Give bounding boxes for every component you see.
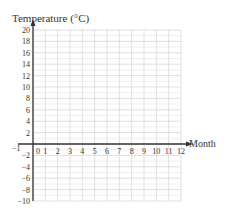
y-tick-label: 2 [26, 129, 30, 138]
y-tick-label: 16 [22, 49, 30, 58]
x-extra-label: −1 [12, 144, 21, 153]
x-axis-title: Month [189, 138, 216, 149]
y-tick-label: −2 [21, 151, 30, 160]
y-tick-label: 10 [22, 83, 30, 92]
y-tick-label: −8 [21, 186, 30, 195]
y-tick-label: 8 [26, 94, 30, 103]
x-tick-label: 6 [105, 147, 109, 156]
y-tick-label: 4 [26, 117, 30, 126]
x-tick-label: 5 [93, 147, 97, 156]
grid [33, 30, 181, 201]
x-tick-label: 10 [152, 147, 160, 156]
y-tick-label: −10 [17, 197, 30, 206]
y-tick-label: −6 [21, 174, 30, 183]
x-tick-label: 4 [80, 147, 84, 156]
x-tick-label: 1 [43, 147, 47, 156]
x-tick-label: 0 [36, 147, 40, 156]
x-tick-label: 3 [68, 147, 72, 156]
x-tick-label: 9 [142, 147, 146, 156]
x-tick-label: 2 [56, 147, 60, 156]
x-tick-label: 11 [165, 147, 173, 156]
y-tick-label: 18 [22, 37, 30, 46]
x-tick-label: 7 [117, 147, 121, 156]
chart: 2018161412108642−2−4−6−8−100123456789101… [0, 0, 228, 222]
y-tick-label: 14 [22, 60, 30, 69]
x-tick-label: 12 [177, 147, 185, 156]
y-axis-title: Temperature (°C) [12, 12, 90, 25]
x-tick-label: 8 [130, 147, 134, 156]
y-tick-label: 12 [22, 72, 30, 81]
y-tick-label: 20 [22, 26, 30, 35]
y-tick-label: −4 [21, 163, 30, 172]
y-tick-label: 6 [26, 106, 30, 115]
